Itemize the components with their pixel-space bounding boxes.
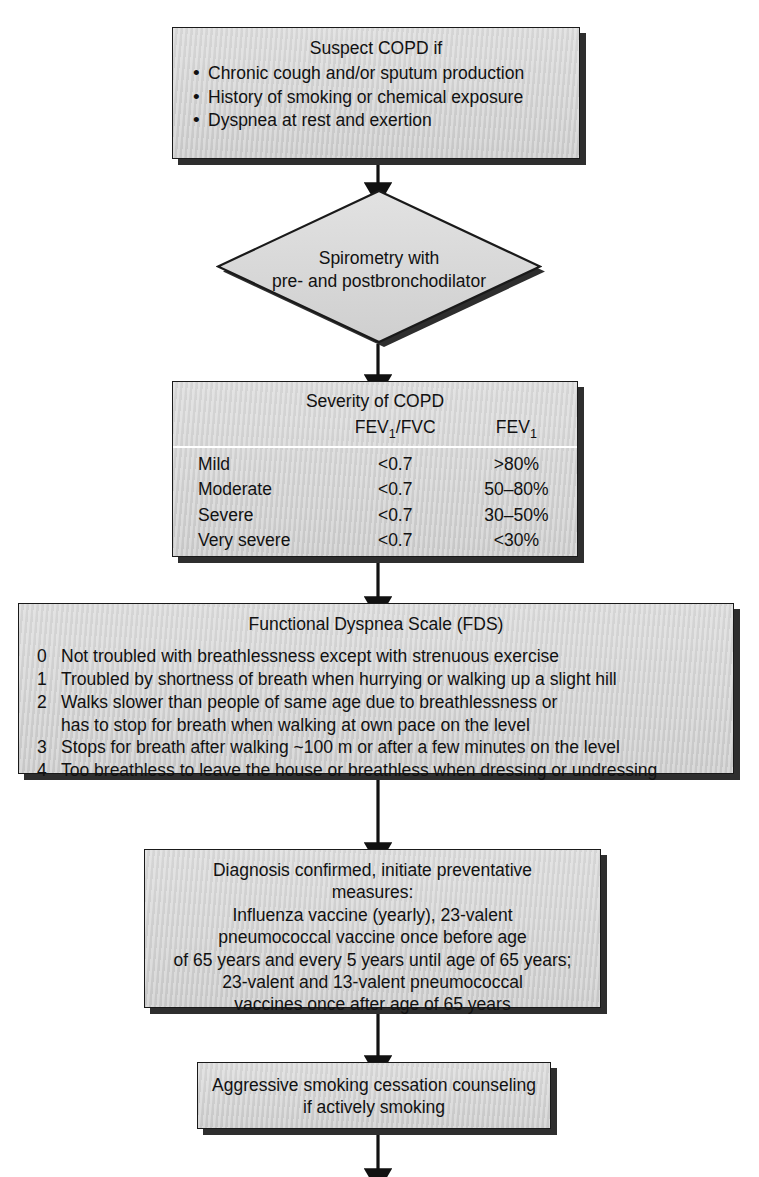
node-functional-dyspnea-scale: Functional Dyspnea Scale (FDS) 0 Not tro…: [18, 603, 734, 774]
fds-description-continued: has to stop for breath when walking at o…: [37, 714, 733, 737]
fds-description: Troubled by shortness of breath when hur…: [61, 668, 733, 691]
diagnosis-line: Influenza vaccine (yearly), 23-valent: [145, 904, 600, 926]
cell-fev1-fvc: <0.7: [335, 528, 456, 553]
table-row: Mild <0.7 >80%: [173, 447, 577, 477]
cell-fev1: >80%: [456, 447, 577, 477]
fds-title: Functional Dyspnea Scale (FDS): [19, 613, 733, 635]
cell-severity: Severe: [173, 502, 335, 527]
cell-fev1: 30–50%: [456, 502, 577, 527]
cell-fev1-fvc: <0.7: [335, 477, 456, 502]
fds-description: Stops for breath after walking ~100 m or…: [61, 736, 733, 759]
suspect-bullet-list: Chronic cough and/or sputum production H…: [173, 62, 579, 131]
fds-description: Not troubled with breathlessness except …: [61, 645, 733, 668]
diagnosis-line: measures:: [145, 881, 600, 903]
diagnosis-line: Diagnosis confirmed, initiate preventati…: [145, 859, 600, 881]
diagnosis-line: 23-valent and 13-valent pneumococcal: [145, 971, 600, 993]
list-item: 2 Walks slower than people of same age d…: [37, 691, 733, 714]
column-header-severity: [173, 416, 335, 447]
severity-table: FEV1/FVC FEV1 Mild <0.7 >80% Moderate <0…: [173, 416, 577, 553]
suspect-title: Suspect COPD if: [173, 37, 579, 59]
table-row: Severe <0.7 30–50%: [173, 502, 577, 527]
node-spirometry-decision: Spirometry with pre- and postbronchodila…: [216, 189, 542, 344]
cell-severity: Mild: [173, 447, 335, 477]
cessation-line: if actively smoking: [198, 1096, 550, 1118]
table-header-row: FEV1/FVC FEV1: [173, 416, 577, 447]
column-header-fev1: FEV1: [456, 416, 577, 447]
table-row: Very severe <0.7 <30%: [173, 528, 577, 553]
list-item: History of smoking or chemical exposure: [193, 86, 579, 108]
list-item: 3 Stops for breath after walking ~100 m …: [37, 736, 733, 759]
list-item: 0 Not troubled with breathlessness excep…: [37, 645, 733, 668]
node-smoking-cessation: Aggressive smoking cessation counseling …: [197, 1062, 551, 1129]
list-item: Chronic cough and/or sputum production: [193, 62, 579, 84]
cell-severity: Very severe: [173, 528, 335, 553]
node-severity-of-copd: Severity of COPD FEV1/FVC FEV1 Mild <0.7…: [172, 381, 578, 557]
severity-title: Severity of COPD: [173, 390, 577, 412]
node-suspect-copd: Suspect COPD if Chronic cough and/or spu…: [172, 27, 580, 159]
fds-description: Too breathless to leave the house or bre…: [61, 759, 733, 782]
cell-fev1: <30%: [456, 528, 577, 553]
fds-grade: 1: [37, 668, 61, 691]
list-item: 1 Troubled by shortness of breath when h…: [37, 668, 733, 691]
fds-list: 0 Not troubled with breathlessness excep…: [19, 645, 733, 782]
fds-grade: 3: [37, 736, 61, 759]
diagnosis-line: pneumococcal vaccine once before age: [145, 926, 600, 948]
cell-fev1-fvc: <0.7: [335, 502, 456, 527]
spirometry-line-2: pre- and postbronchodilator: [216, 270, 542, 293]
fds-grade: 4: [37, 759, 61, 782]
cell-fev1: 50–80%: [456, 477, 577, 502]
diagnosis-line: of 65 years and every 5 years until age …: [145, 949, 600, 971]
fds-grade: 2: [37, 691, 61, 714]
copd-flowchart: Suspect COPD if Chronic cough and/or spu…: [0, 0, 759, 1177]
cell-fev1-fvc: <0.7: [335, 447, 456, 477]
list-item: Dyspnea at rest and exertion: [193, 109, 579, 131]
node-diagnosis-confirmed: Diagnosis confirmed, initiate preventati…: [144, 849, 601, 1008]
diagnosis-line: vaccines once after age of 65 years: [145, 993, 600, 1015]
column-header-fev1-fvc: FEV1/FVC: [335, 416, 456, 447]
fds-description: Walks slower than people of same age due…: [61, 691, 733, 714]
fds-grade: 0: [37, 645, 61, 668]
spirometry-label: Spirometry with pre- and postbronchodila…: [216, 247, 542, 293]
list-item: 4 Too breathless to leave the house or b…: [37, 759, 733, 782]
cessation-line: Aggressive smoking cessation counseling: [198, 1074, 550, 1096]
table-row: Moderate <0.7 50–80%: [173, 477, 577, 502]
cell-severity: Moderate: [173, 477, 335, 502]
spirometry-line-1: Spirometry with: [216, 247, 542, 270]
